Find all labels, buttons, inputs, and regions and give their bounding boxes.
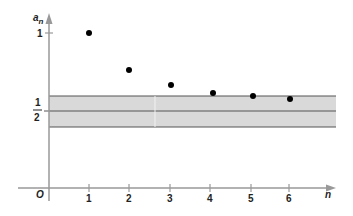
x-tick-label-2: 2 xyxy=(126,193,132,204)
y-tick-label-half-den: 2 xyxy=(34,112,40,123)
x-axis-label: n xyxy=(325,189,331,200)
point-n6 xyxy=(287,96,293,102)
point-n5 xyxy=(250,93,256,99)
x-tick-label-6: 6 xyxy=(286,193,292,204)
y-axis-arrow-icon xyxy=(46,13,53,24)
point-n2 xyxy=(126,67,132,73)
y-tick-label-half-num: 1 xyxy=(35,97,41,108)
x-tick-label-3: 3 xyxy=(167,193,173,204)
point-n3 xyxy=(168,82,174,88)
x-tick-label-5: 5 xyxy=(248,193,254,204)
origin-label: O xyxy=(36,189,44,200)
y-axis-label: an xyxy=(33,12,44,26)
y-tick-label-1: 1 xyxy=(37,28,43,39)
data-points xyxy=(86,30,293,102)
sequence-chart: an 1 1 2 O 1 2 3 4 5 6 n xyxy=(0,0,353,216)
point-n4 xyxy=(210,90,216,96)
point-n1 xyxy=(86,30,92,36)
x-tick-label-4: 4 xyxy=(207,193,213,204)
x-tick-label-1: 1 xyxy=(86,193,92,204)
